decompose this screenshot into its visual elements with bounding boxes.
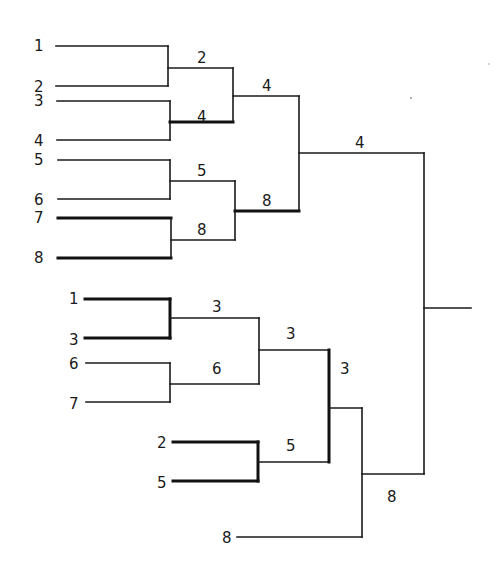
bracket-label-b-l6: 6 xyxy=(69,355,79,373)
bracket-label-t-l6: 6 xyxy=(34,191,44,209)
bracket-label-t-w8b: 8 xyxy=(262,192,272,210)
bracket-label-t-l3: 3 xyxy=(34,92,44,110)
bracket-label-b-w8: 8 xyxy=(387,488,397,506)
bracket-label-t-w8a: 8 xyxy=(197,221,207,239)
bracket-label-b-w6: 6 xyxy=(212,360,222,378)
tournament-bracket-diagram: 1234567824584841367258365338 xyxy=(0,0,497,581)
bracket-label-t-l7: 7 xyxy=(34,209,44,227)
bracket-label-b-l2: 2 xyxy=(157,434,167,452)
bracket-labels: 1234567824584841367258365338 xyxy=(34,37,397,547)
bracket-label-t-w2: 2 xyxy=(197,49,207,67)
bracket-label-t-w5: 5 xyxy=(197,162,207,180)
bracket-lines xyxy=(56,46,471,537)
bracket-label-t-l1: 1 xyxy=(34,37,44,55)
scan-specks xyxy=(410,63,490,99)
bracket-label-b-w3c: 3 xyxy=(340,360,350,378)
bracket-label-t-l4: 4 xyxy=(34,132,44,150)
bracket-label-b-l5: 5 xyxy=(157,474,167,492)
bracket-label-b-l1: 1 xyxy=(69,290,79,308)
bracket-label-t-l8: 8 xyxy=(34,249,44,267)
bracket-label-b-w3a: 3 xyxy=(212,298,222,316)
bracket-label-t-w4b: 4 xyxy=(262,77,272,95)
bracket-label-b-l3: 3 xyxy=(69,331,79,349)
bracket-label-t-w4a: 4 xyxy=(197,108,207,126)
bracket-label-b-w5: 5 xyxy=(286,437,296,455)
bracket-label-b-l7: 7 xyxy=(69,395,79,413)
bracket-label-b-l8: 8 xyxy=(222,529,232,547)
bracket-label-b-w3b: 3 xyxy=(286,325,296,343)
bracket-label-t-w4c: 4 xyxy=(355,134,365,152)
bracket-label-t-l5: 5 xyxy=(34,151,44,169)
